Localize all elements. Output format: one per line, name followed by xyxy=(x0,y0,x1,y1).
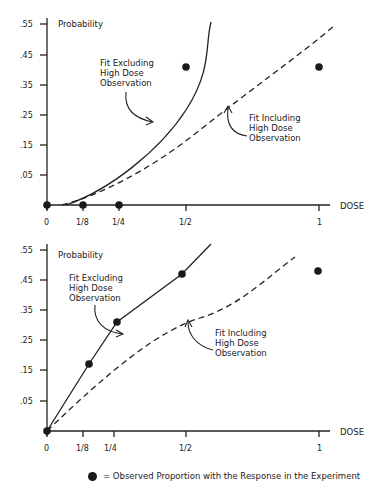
top-ytick: .45 xyxy=(20,51,33,60)
svg-text:High Dose: High Dose xyxy=(100,68,144,78)
top-ytick: .35 xyxy=(20,81,33,90)
bottom-xtick: 1 xyxy=(317,444,322,453)
bottom-x-ticks: 0 1/8 1/4 1/2 1 xyxy=(44,431,322,453)
bottom-y-ticks: .55 .45 .35 .25 .15 .05 xyxy=(20,246,47,406)
bottom-observed-point xyxy=(178,270,186,278)
top-ytick: .55 xyxy=(20,20,33,29)
bottom-y-label: Probability xyxy=(58,250,103,260)
bottom-observed-point xyxy=(113,318,121,326)
legend-text: = Observed Proportion with the Response … xyxy=(103,471,360,481)
bottom-ytick: .45 xyxy=(20,276,33,285)
top-xtick: 0 xyxy=(44,218,49,227)
bottom-ytick: .25 xyxy=(20,336,33,345)
top-ytick: .05 xyxy=(20,171,33,180)
figure: .55 .45 .35 .25 .15 .05 Probability 0 1/… xyxy=(0,0,379,493)
bottom-ytick: .15 xyxy=(20,366,33,375)
top-chart: .55 .45 .35 .25 .15 .05 Probability 0 1/… xyxy=(20,18,364,227)
top-annotation-excluding: Fit Excluding High Dose Observation xyxy=(100,58,154,125)
top-fit-excluding-curve xyxy=(66,22,211,205)
svg-text:High Dose: High Dose xyxy=(249,123,293,133)
bottom-x-label: DOSE xyxy=(340,427,364,437)
bottom-ytick: .05 xyxy=(20,397,33,406)
top-observed-point xyxy=(115,201,123,209)
top-x-ticks: 0 1/8 1/4 1/2 1 xyxy=(44,205,322,227)
top-observed-point xyxy=(315,63,323,71)
bottom-annotation-including: Fit Including High Dose Observation xyxy=(185,320,267,358)
bottom-xtick: 1/8 xyxy=(76,444,89,453)
bottom-xtick: 1/4 xyxy=(104,444,117,453)
top-annotation-including: Fit Including High Dose Observation xyxy=(224,106,301,143)
svg-text:Observation: Observation xyxy=(69,293,121,303)
top-ytick: .15 xyxy=(20,141,33,150)
top-x-label: DOSE xyxy=(340,201,364,211)
arrow-icon xyxy=(228,108,247,136)
bottom-observed-point xyxy=(314,267,322,275)
top-y-ticks: .55 .45 .35 .25 .15 .05 xyxy=(20,20,47,180)
svg-text:Observation: Observation xyxy=(215,348,267,358)
top-y-label: Probability xyxy=(58,19,103,29)
bottom-ytick: .55 xyxy=(20,246,33,255)
svg-text:Fit Including: Fit Including xyxy=(249,113,301,123)
top-xtick: 1 xyxy=(317,218,322,227)
top-observed-point xyxy=(79,201,87,209)
bottom-ytick: .35 xyxy=(20,306,33,315)
bottom-chart: .55 .45 .35 .25 .15 .05 Probability 0 1/… xyxy=(20,244,364,453)
svg-text:Fit Excluding: Fit Excluding xyxy=(69,273,123,283)
bottom-annotation-excluding: Fit Excluding High Dose Observation xyxy=(69,273,123,337)
arrow-icon xyxy=(126,92,152,122)
top-observed-point xyxy=(43,201,51,209)
bottom-observed-point xyxy=(85,360,93,368)
bottom-observed-point xyxy=(43,427,51,435)
observed-point-marker-icon xyxy=(88,472,97,481)
svg-text:Observation: Observation xyxy=(100,78,152,88)
top-ytick: .25 xyxy=(20,111,33,120)
bottom-xtick: 0 xyxy=(44,444,49,453)
svg-text:Fit Excluding: Fit Excluding xyxy=(100,58,154,68)
bottom-xtick: 1/2 xyxy=(179,444,192,453)
top-xtick: 1/8 xyxy=(76,218,89,227)
legend: = Observed Proportion with the Response … xyxy=(88,471,360,481)
top-observed-point xyxy=(182,63,190,71)
svg-text:Fit Including: Fit Including xyxy=(215,328,267,338)
svg-text:Observation: Observation xyxy=(249,133,301,143)
top-xtick: 1/2 xyxy=(179,218,192,227)
svg-text:High Dose: High Dose xyxy=(215,338,259,348)
svg-text:High Dose: High Dose xyxy=(69,283,113,293)
top-xtick: 1/4 xyxy=(112,218,125,227)
